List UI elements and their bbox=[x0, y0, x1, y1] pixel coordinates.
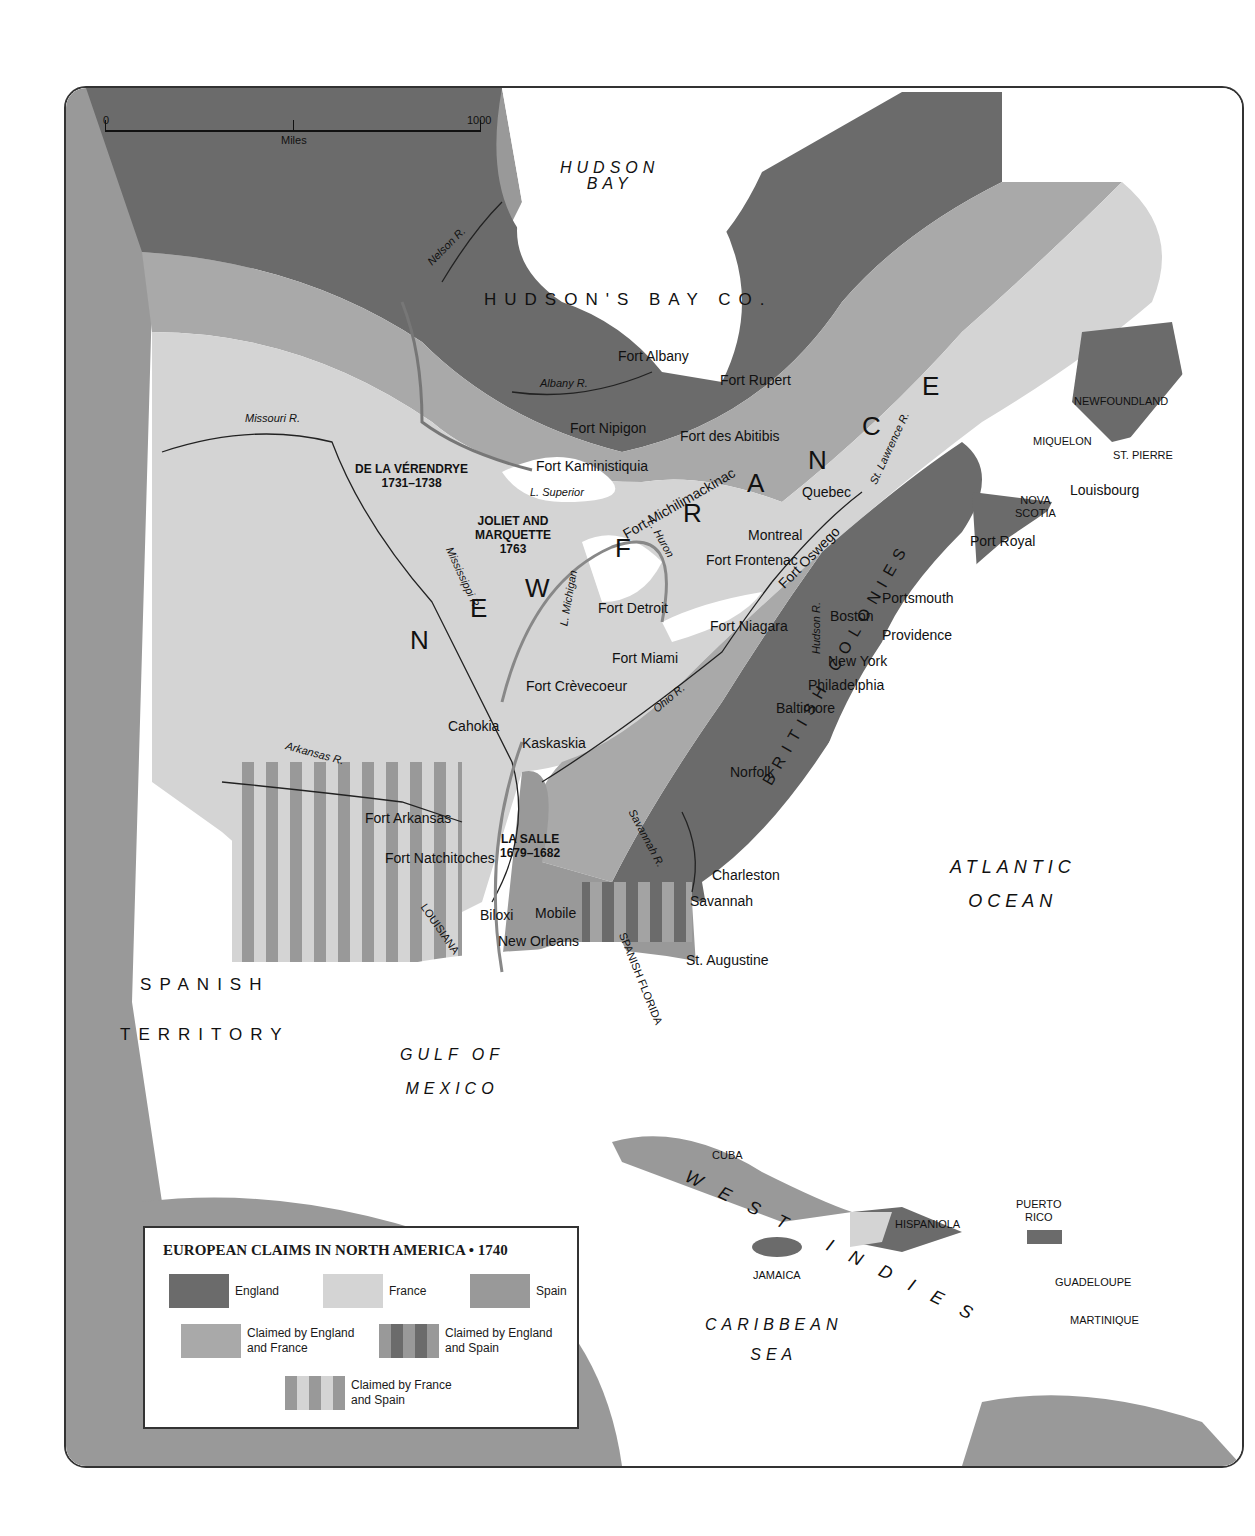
city-new-orleans: New Orleans bbox=[498, 933, 579, 949]
new-france-letter: W bbox=[525, 580, 550, 596]
fort-crevecoeur-label: Fort Crèvecoeur bbox=[526, 678, 627, 694]
jamaica-label: JAMAICA bbox=[753, 1267, 801, 1283]
nova-scotia-label: NOVASCOTIA bbox=[1015, 494, 1056, 520]
england-spain-swatch bbox=[379, 1324, 439, 1358]
new-france-letter: E bbox=[922, 378, 939, 394]
explorer-de-la-verendrye: DE LA VÉRENDRYE1731–1738 bbox=[355, 462, 468, 490]
caribbean-sea-label: CARIBBEANSEA bbox=[705, 1310, 842, 1370]
albany-river-label: Albany R. bbox=[540, 375, 588, 391]
scale-tick-mid bbox=[293, 120, 294, 132]
spanish-territory-label: SPANISHTERRITORY bbox=[120, 960, 290, 1060]
scale-bar: 0 1000 Miles bbox=[105, 118, 485, 146]
england-swatch bbox=[169, 1274, 229, 1308]
spain-swatch bbox=[470, 1274, 530, 1308]
fort-albany-label: Fort Albany bbox=[618, 348, 658, 364]
explorer-la-salle: LA SALLE1679–1682 bbox=[500, 832, 560, 860]
city-kaskaskia: Kaskaskia bbox=[522, 735, 586, 751]
city-providence: Providence bbox=[882, 627, 952, 643]
legend-item-england: England bbox=[169, 1274, 279, 1308]
city-louisbourg: Louisbourg bbox=[1070, 482, 1139, 498]
hudson-river-label: Hudson R. bbox=[808, 602, 824, 654]
legend-title: EUROPEAN CLAIMS IN NORTH AMERICA • 1740 bbox=[163, 1242, 508, 1259]
new-france-letter: N bbox=[410, 632, 429, 648]
fort-rupert-label: Fort Rupert bbox=[720, 372, 791, 388]
lake-superior-label: L. Superior bbox=[530, 484, 584, 500]
fort-natchitoches-label: Fort Natchitoches bbox=[385, 850, 495, 866]
legend-item-spain: Spain bbox=[470, 1274, 567, 1308]
legend-item-france: France bbox=[323, 1274, 426, 1308]
guadeloupe-label: GUADELOUPE bbox=[1055, 1274, 1131, 1290]
new-france-letter: A bbox=[747, 475, 764, 491]
martinique-label: MARTINIQUE bbox=[1070, 1312, 1139, 1328]
city-baltimore: Baltimore bbox=[776, 700, 835, 716]
legend-item-france-spain: Claimed by Franceand Spain bbox=[285, 1376, 452, 1410]
puerto-rico-label: PUERTORICO bbox=[1016, 1198, 1061, 1224]
city-biloxi: Biloxi bbox=[480, 907, 513, 923]
city-portsmouth: Portsmouth bbox=[882, 590, 954, 606]
fort-miami-label: Fort Miami bbox=[612, 650, 678, 666]
fort-niagara-label: Fort Niagara bbox=[710, 618, 788, 634]
city-mobile: Mobile bbox=[535, 905, 576, 921]
city-new-york: New York bbox=[828, 653, 887, 669]
city-montreal: Montreal bbox=[748, 527, 802, 543]
scale-start-label: 0 bbox=[103, 112, 109, 128]
fort-des-abitibis-label: Fort des Abitibis bbox=[680, 428, 780, 444]
city-port-royal: Port Royal bbox=[970, 533, 1035, 549]
fort-nipigon-label: Fort Nipigon bbox=[570, 420, 646, 436]
scale-unit-label: Miles bbox=[281, 132, 307, 148]
legend-item-england-france: Claimed by Englandand France bbox=[181, 1324, 354, 1358]
city-savannah: Savannah bbox=[690, 893, 753, 909]
miquelon-label: MIQUELON bbox=[1033, 433, 1092, 449]
fort-detroit-label: Fort Detroit bbox=[598, 600, 668, 616]
legend-item-england-spain: Claimed by Englandand Spain bbox=[379, 1324, 552, 1358]
atlantic-ocean-label: ATLANTICOCEAN bbox=[950, 850, 1076, 918]
fort-kaministiquia-label: Fort Kaministiquia bbox=[536, 458, 648, 474]
gulf-of-mexico-label: GULF OFMEXICO bbox=[400, 1038, 504, 1106]
new-france-letter: C bbox=[862, 418, 881, 434]
scale-end-label: 1000 bbox=[467, 112, 491, 128]
new-france-letter: F bbox=[615, 540, 631, 556]
england-france-swatch bbox=[181, 1324, 241, 1358]
hispaniola-label: HISPANIOLA bbox=[895, 1216, 960, 1232]
city-boston: Boston bbox=[830, 608, 874, 624]
city-philadelphia: Philadelphia bbox=[808, 677, 884, 693]
city-charleston: Charleston bbox=[712, 867, 780, 883]
hudson-bay-label: HUDSONBAY bbox=[560, 160, 659, 192]
france-swatch bbox=[323, 1274, 383, 1308]
hudsons-bay-co-label: HUDSON'S BAY CO. bbox=[484, 292, 772, 308]
cuba-label: CUBA bbox=[712, 1147, 743, 1163]
explorer-joliet-marquette: JOLIET ANDMARQUETTE1763 bbox=[475, 514, 551, 556]
newfoundland-label: NEWFOUNDLAND bbox=[1074, 393, 1168, 409]
fort-arkansas-label: Fort Arkansas bbox=[365, 810, 451, 826]
france-spain-swatch bbox=[285, 1376, 345, 1410]
fort-frontenac-label: Fort Frontenac bbox=[706, 552, 798, 568]
city-quebec: Quebec bbox=[802, 484, 851, 500]
city-cahokia: Cahokia bbox=[448, 718, 499, 734]
new-france-letter: N bbox=[808, 452, 827, 468]
missouri-river-label: Missouri R. bbox=[245, 410, 300, 426]
city-norfolk: Norfolk bbox=[730, 764, 774, 780]
map-legend: EUROPEAN CLAIMS IN NORTH AMERICA • 1740 … bbox=[143, 1226, 579, 1429]
st-pierre-label: ST. PIERRE bbox=[1113, 447, 1173, 463]
city-st-augustine: St. Augustine bbox=[686, 952, 769, 968]
